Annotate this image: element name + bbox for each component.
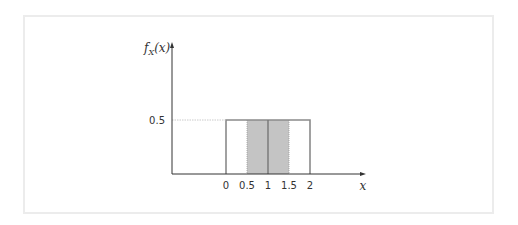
y-axis-label: fX(x) xyxy=(143,41,171,57)
y-label-arg: (x) xyxy=(154,41,170,55)
x-tick-label: 0 xyxy=(223,180,229,191)
x-tick-label: 0.5 xyxy=(239,180,255,191)
x-axis-arrow-icon xyxy=(360,172,366,176)
x-tick-label: 1 xyxy=(265,180,271,191)
x-axis-label: x xyxy=(360,179,367,193)
x-tick-label: 1.5 xyxy=(281,180,297,191)
x-tick-label: 2 xyxy=(307,180,313,191)
y-tick-label: 0.5 xyxy=(149,115,165,126)
chart-canvas: 0.5 0 0.5 1 1.5 2 x fX(x) xyxy=(0,0,518,225)
y-axis-arrow-icon xyxy=(170,42,174,48)
